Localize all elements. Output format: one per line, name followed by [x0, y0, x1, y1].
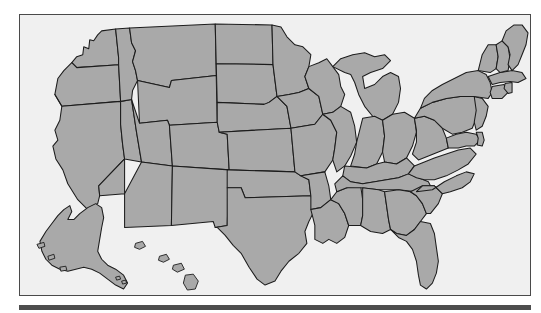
hawaii-maui — [172, 263, 184, 272]
hawaii-kauai — [135, 241, 146, 249]
state-OH[interactable]: Ohio — [383, 112, 417, 164]
state-NM[interactable]: New Mexico — [171, 166, 229, 228]
state-SD[interactable]: South Dakota — [216, 64, 277, 105]
state-KS[interactable]: Kansas — [219, 128, 295, 172]
state-TX[interactable]: Texas — [215, 188, 315, 285]
state-AK[interactable]: Alaska — [40, 204, 128, 289]
state-MD[interactable]: Maryland — [446, 132, 480, 148]
state-MN[interactable]: Minnesota — [272, 25, 311, 96]
state-OR[interactable]: Oregon — [55, 63, 121, 107]
alaska-aleutian-3 — [60, 266, 67, 271]
state-NJ[interactable]: New Jersey — [474, 96, 488, 130]
hawaii-oahu — [158, 254, 169, 262]
state-MA[interactable]: Massachusetts — [488, 71, 526, 85]
figure-page: Washington Oregon California Nevada Idah… — [0, 0, 541, 313]
state-VT[interactable]: Vermont — [478, 45, 498, 73]
hawaii-bigisland — [183, 274, 198, 290]
bottom-rule — [19, 305, 531, 310]
state-ND[interactable]: North Dakota — [215, 24, 273, 65]
map-frame: Washington Oregon California Nevada Idah… — [19, 14, 531, 296]
state-WY[interactable]: Wyoming — [138, 76, 218, 126]
state-WA[interactable]: Washington — [72, 29, 119, 68]
us-map[interactable]: Washington Oregon California Nevada Idah… — [20, 15, 530, 295]
